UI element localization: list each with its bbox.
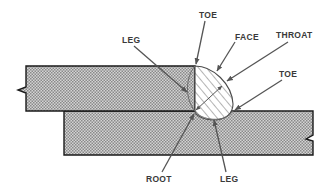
leader-toe-right bbox=[235, 80, 282, 110]
label-throat: THROAT bbox=[276, 30, 313, 40]
label-toe-right: TOE bbox=[279, 69, 297, 79]
leader-face bbox=[217, 42, 235, 71]
label-toe-top: TOE bbox=[199, 10, 217, 20]
bottom-plate bbox=[64, 111, 313, 155]
label-leg-top: LEG bbox=[122, 35, 140, 45]
fillet-weld-diagram: LEG TOE FACE THROAT TOE ROOT LEG bbox=[0, 0, 326, 196]
label-root: ROOT bbox=[146, 174, 172, 184]
top-plate bbox=[18, 66, 195, 111]
leader-toe-top bbox=[196, 21, 205, 64]
label-face: FACE bbox=[235, 32, 259, 42]
label-leg-bottom: LEG bbox=[220, 174, 238, 184]
